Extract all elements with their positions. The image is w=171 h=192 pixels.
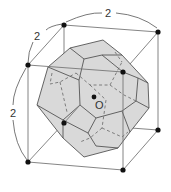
center-label: O bbox=[95, 99, 104, 111]
dimension-label-depth: 2 bbox=[34, 30, 40, 42]
dimension-label-height: 2 bbox=[10, 107, 16, 119]
dimension-label-top: 2 bbox=[105, 7, 111, 19]
truncated-octahedron-diagram: O 2 2 2 bbox=[0, 0, 171, 192]
